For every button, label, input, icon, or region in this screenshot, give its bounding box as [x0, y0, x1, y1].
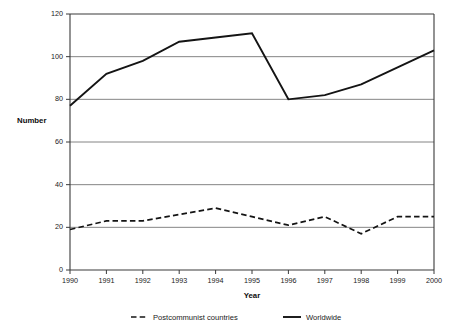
legend-label-postcommunist-countries: Postcommunist countries: [153, 313, 238, 322]
x-tick-label: 2000: [426, 276, 442, 285]
line-chart: 020406080100120 199019911992199319941995…: [0, 0, 449, 336]
y-tick-label: 100: [51, 52, 63, 61]
x-tick-label: 1990: [62, 276, 78, 285]
y-tick-label: 80: [55, 94, 63, 103]
x-tick-label: 1992: [135, 276, 151, 285]
legend: Postcommunist countries Worldwide: [131, 313, 341, 322]
y-tick-label: 20: [55, 222, 63, 231]
legend-label-worldwide: Worldwide: [306, 313, 341, 322]
y-tick-label: 40: [55, 180, 63, 189]
chart-figure: 020406080100120 199019911992199319941995…: [0, 0, 449, 336]
y-tick-label: 120: [51, 9, 63, 18]
x-tick-label: 1995: [244, 276, 260, 285]
y-tick-label: 60: [55, 137, 63, 146]
x-tick-label: 1998: [353, 276, 369, 285]
x-tick-label: 1997: [317, 276, 333, 285]
x-tick-label: 1994: [208, 276, 224, 285]
y-tick-label: 0: [59, 265, 63, 274]
x-tick-label: 1993: [171, 276, 187, 285]
x-tick-label: 1999: [390, 276, 406, 285]
x-tick-label: 1991: [98, 276, 114, 285]
x-axis-title: Year: [244, 291, 260, 300]
chart-background: [0, 0, 449, 336]
y-axis-title: Number: [17, 116, 46, 125]
x-tick-label: 1996: [280, 276, 296, 285]
